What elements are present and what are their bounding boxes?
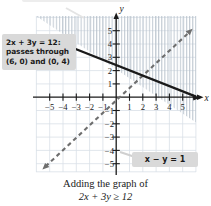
svg-text:1: 1 [108,79,112,89]
callout-eq1-line2: passes through [6,47,73,56]
caption-line-2: 2x + 3y ≥ 12 [0,191,211,202]
svg-text:5: 5 [181,102,185,112]
svg-text:4: 4 [108,39,113,49]
svg-text:−2: −2 [85,102,94,112]
caption-line-1: Adding the graph of [0,178,211,189]
callout-equation-x-minus-y-1: x − y = 1 [132,152,198,167]
callout-equation-2x-3y-12: 2x + 3y = 12: passes through (6, 0) and … [2,34,76,70]
callout-eq1-line1: 2x + 3y = 12: [6,38,73,47]
svg-text:−3: −3 [105,132,114,142]
svg-text:2: 2 [108,66,112,76]
svg-text:1: 1 [127,102,131,112]
svg-text:2: 2 [141,102,145,112]
svg-text:3: 3 [154,102,158,112]
svg-text:−5: −5 [105,159,114,169]
x-axis-label: x [204,93,210,103]
y-axis-label: y [119,4,125,14]
svg-text:−4: −4 [58,102,68,112]
svg-text:−5: −5 [45,102,54,112]
svg-text:4: 4 [167,102,172,112]
callout-top-partial [22,0,130,2]
svg-text:−1: −1 [105,106,114,116]
svg-text:5: 5 [108,26,112,36]
svg-text:−2: −2 [105,119,114,129]
svg-text:−3: −3 [72,102,81,112]
svg-text:−4: −4 [105,146,115,156]
svg-text:3: 3 [108,52,112,62]
coordinate-plane-graph: x y −5 −4 −3 −2 −1 1 2 3 4 5 5 4 3 2 1 −… [0,0,211,206]
figure-container: x y −5 −4 −3 −2 −1 1 2 3 4 5 5 4 3 2 1 −… [0,0,211,206]
callout-eq1-line3: (6, 0) and (0, 4) [6,57,73,66]
